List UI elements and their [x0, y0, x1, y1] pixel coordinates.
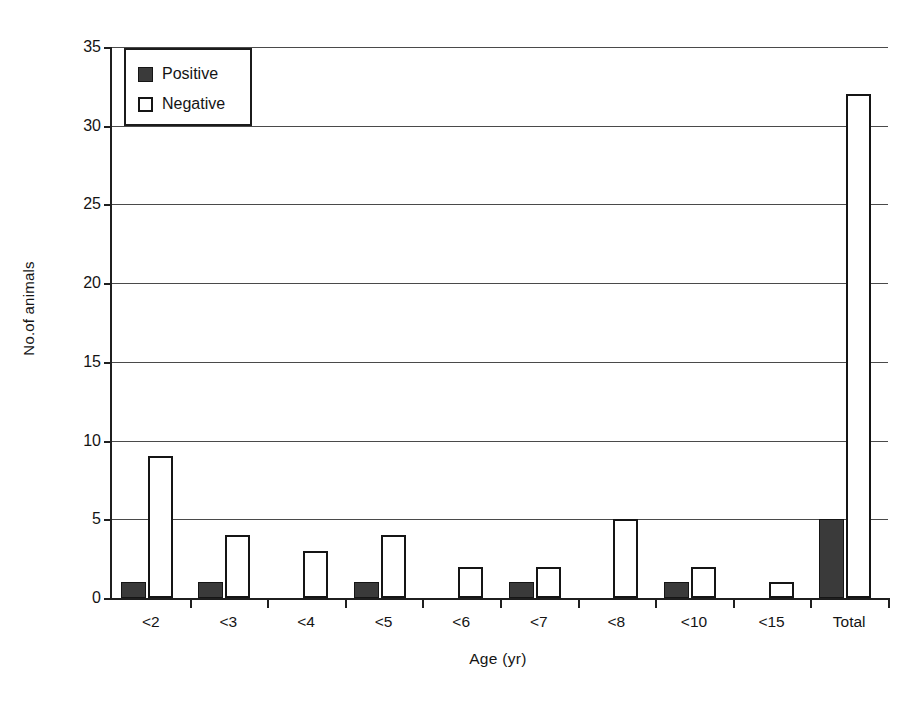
y-tick-mark — [104, 204, 112, 206]
y-tick-mark — [104, 519, 112, 521]
y-tick-label: 35 — [83, 38, 101, 56]
bar-negative — [769, 582, 794, 598]
bar-group — [578, 47, 656, 598]
bar-positive — [121, 582, 146, 598]
x-tick-label: <4 — [297, 613, 315, 631]
bar-group — [267, 47, 345, 598]
bar-negative — [148, 456, 173, 598]
bar-group — [733, 47, 811, 598]
legend-label-negative: Negative — [162, 95, 225, 113]
legend: Positive Negative — [124, 48, 252, 126]
x-tick-mark — [345, 598, 347, 608]
y-tick-mark — [104, 362, 112, 364]
bar-group — [190, 47, 268, 598]
bar-group — [655, 47, 733, 598]
plot-area: 05101520253035 <2<3<4<5<6<7<8<10<15Total… — [110, 47, 888, 600]
bar-negative — [536, 567, 561, 598]
y-tick-label: 0 — [92, 589, 101, 607]
bar-negative — [846, 94, 871, 598]
bar-negative — [458, 567, 483, 598]
y-tick-mark — [104, 598, 112, 600]
x-tick-label: <2 — [142, 613, 160, 631]
bar-negative — [303, 551, 328, 598]
y-tick-label: 30 — [83, 117, 101, 135]
bar-group — [810, 47, 888, 598]
bar-positive — [509, 582, 534, 598]
bar-negative — [225, 535, 250, 598]
y-tick-mark — [104, 283, 112, 285]
x-tick-label: <7 — [530, 613, 548, 631]
legend-item-positive: Positive — [138, 59, 250, 89]
x-tick-label: <3 — [220, 613, 238, 631]
legend-swatch-positive-icon — [138, 67, 153, 82]
legend-item-negative: Negative — [138, 89, 250, 119]
y-tick-mark — [104, 126, 112, 128]
y-tick-label: 10 — [83, 432, 101, 450]
legend-label-positive: Positive — [162, 65, 218, 83]
bar-positive — [354, 582, 379, 598]
bar-group — [112, 47, 190, 598]
bar-negative — [691, 567, 716, 598]
y-tick-label: 5 — [92, 510, 101, 528]
x-tick-label: <6 — [452, 613, 470, 631]
x-tick-mark — [810, 598, 812, 608]
x-axis-title: Age (yr) — [110, 650, 886, 668]
bar-positive — [819, 519, 844, 598]
bar-positive — [198, 582, 223, 598]
bar-chart: No.of animals 05101520253035 <2<3<4<5<6<… — [0, 0, 915, 702]
x-tick-label: <10 — [681, 613, 707, 631]
bar-group — [345, 47, 423, 598]
x-tick-mark — [500, 598, 502, 608]
x-tick-label: <5 — [375, 613, 393, 631]
x-tick-label: <8 — [608, 613, 626, 631]
bar-positive — [664, 582, 689, 598]
y-tick-label: 25 — [83, 195, 101, 213]
x-tick-mark — [422, 598, 424, 608]
x-tick-mark — [888, 598, 890, 608]
x-tick-label: <15 — [758, 613, 784, 631]
y-tick-mark — [104, 441, 112, 443]
x-tick-mark — [190, 598, 192, 608]
bar-group — [500, 47, 578, 598]
y-tick-mark — [104, 47, 112, 49]
y-tick-label: 15 — [83, 353, 101, 371]
x-tick-label: Total — [833, 613, 866, 631]
legend-swatch-negative-icon — [138, 97, 153, 112]
x-tick-mark — [733, 598, 735, 608]
bar-group — [422, 47, 500, 598]
x-tick-mark — [655, 598, 657, 608]
bar-negative — [613, 519, 638, 598]
bar-negative — [381, 535, 406, 598]
y-tick-label: 20 — [83, 274, 101, 292]
x-tick-mark — [267, 598, 269, 608]
x-tick-mark — [578, 598, 580, 608]
y-axis-title: No.of animals — [20, 209, 37, 409]
